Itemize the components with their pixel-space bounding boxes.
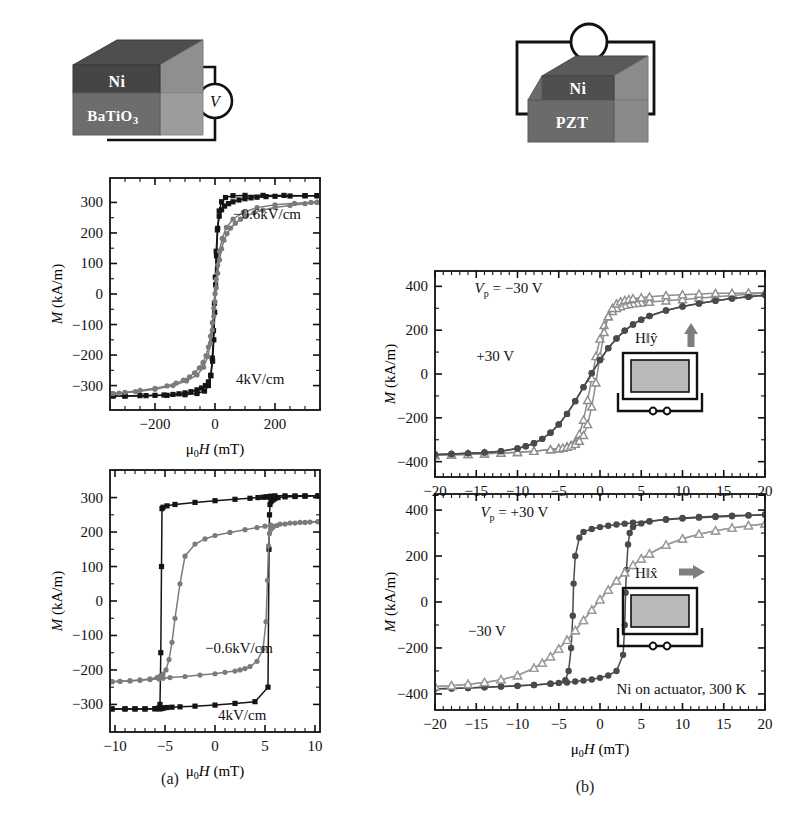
data-point (203, 353, 208, 358)
inset-field-label: H‖x̂ (635, 565, 658, 581)
data-point (161, 392, 166, 397)
series-line (112, 496, 318, 709)
x-tick-label: 0 (211, 416, 219, 432)
y-tick-label: 0 (96, 286, 104, 302)
data-point (266, 543, 271, 548)
chart-a-bottom: −10−50510−300−200−1000100200300−0.6kV/cm… (40, 462, 340, 772)
batio3-base: BaTiO (87, 108, 133, 124)
data-point (197, 673, 202, 678)
data-point (565, 668, 571, 674)
data-point (679, 535, 687, 542)
data-point (122, 706, 127, 711)
x-tick-label: −20 (423, 716, 446, 732)
data-point (247, 496, 252, 501)
y-tick-label: 200 (81, 524, 104, 540)
data-point (212, 703, 217, 708)
data-point (163, 667, 168, 672)
data-point (177, 704, 182, 709)
y-tick-label: 100 (81, 559, 104, 575)
data-point (600, 328, 608, 335)
y-tick-label: −300 (72, 696, 103, 712)
data-point (232, 497, 237, 502)
data-point (215, 262, 220, 267)
y-tick-label: 200 (406, 548, 429, 564)
data-point (646, 293, 654, 300)
data-point (580, 677, 586, 683)
data-point (523, 443, 529, 449)
data-point (166, 657, 171, 662)
data-series-group (431, 511, 769, 692)
data-point (260, 193, 265, 198)
pzt-label-ni: Ni (570, 80, 587, 97)
data-point (254, 525, 259, 530)
inset-actuator-plate (631, 360, 689, 392)
data-point (267, 502, 272, 507)
series-line (435, 524, 765, 687)
y-tick-label: 200 (406, 322, 429, 338)
x-tick-label: 5 (638, 716, 646, 732)
data-point (307, 519, 312, 524)
data-point (242, 527, 247, 532)
annotation: 4kV/cm (218, 707, 267, 723)
data-point (132, 706, 137, 711)
panel-label-a: (a) (140, 770, 200, 788)
annotation: −0.6kV/cm (205, 640, 273, 656)
data-point (498, 448, 504, 454)
plot-area (110, 470, 320, 732)
data-point (589, 526, 595, 532)
data-point (230, 199, 235, 204)
data-point (613, 335, 619, 341)
annotation: −0.6kV/cm (233, 206, 301, 222)
data-point (627, 530, 633, 536)
data-point (214, 277, 219, 282)
inset-actuator: H‖x̂ (618, 565, 705, 649)
x-axis-label: μ0H (mT) (571, 741, 629, 759)
schematic-ni-pzt-svg: Ni PZT (480, 20, 690, 185)
data-point (531, 440, 537, 446)
data-point (695, 290, 703, 297)
data-point (176, 391, 181, 396)
inset-terminal-left (650, 408, 657, 415)
annotation: Ni on actuator, 300 K (617, 681, 747, 697)
x-tick-label: 5 (261, 738, 269, 754)
data-point (679, 515, 685, 521)
data-point (448, 682, 456, 689)
data-point (696, 514, 702, 520)
data-point (194, 387, 199, 392)
y-tick-label: −300 (72, 378, 103, 394)
data-point (211, 305, 216, 310)
data-point (562, 677, 568, 683)
data-point (172, 616, 177, 621)
data-point (589, 676, 595, 682)
source-circle (571, 24, 607, 60)
series-line (435, 293, 765, 455)
chart-a-top: −2000200−300−200−1000100200300−0.6kV/cm4… (40, 170, 340, 445)
y-tick-label: −100 (72, 317, 103, 333)
data-point (572, 398, 578, 404)
data-point (182, 674, 187, 679)
data-point (181, 377, 186, 382)
data-point (570, 580, 576, 586)
data-point (498, 683, 504, 689)
data-point (613, 668, 619, 674)
data-point (212, 533, 217, 538)
data-point (217, 208, 222, 213)
x-tick-label: 10 (675, 716, 690, 732)
annotation: 4kV/cm (236, 371, 285, 387)
y-tick-label: 400 (406, 502, 429, 518)
data-point (712, 289, 720, 296)
x-tick-label: 0 (596, 716, 604, 732)
data-point (137, 388, 142, 393)
inset-actuator-leads (618, 628, 702, 646)
data-point (220, 236, 225, 241)
data-point (597, 524, 603, 530)
x-tick-label: −10 (506, 716, 529, 732)
data-point (282, 493, 287, 498)
data-point (202, 536, 207, 541)
data-point (556, 680, 562, 686)
data-point (696, 300, 702, 306)
data-point (182, 390, 187, 395)
data-point (164, 503, 169, 508)
block-label-ni: Ni (109, 73, 126, 90)
x-tick-label: −15 (465, 716, 488, 732)
